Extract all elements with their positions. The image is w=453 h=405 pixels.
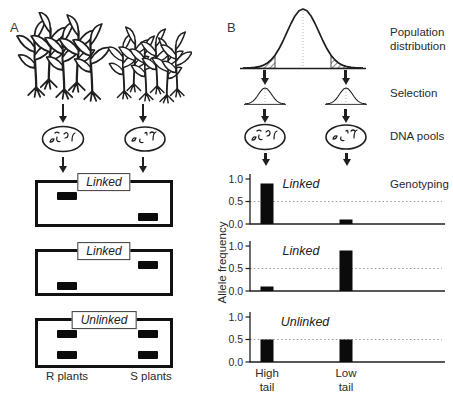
allele-frequency-chart-unlinked: 1.0 0.5 0.0 Unlinked: [225, 304, 450, 366]
chart-linkage-tag: Unlinked: [281, 315, 331, 329]
allele-frequency-chart-linked-2: 1.0 0.5 0.0 Linked: [225, 233, 450, 295]
bar-high-tail: [261, 340, 274, 363]
population-distribution-curve: [236, 5, 370, 71]
bar-high-tail: [261, 184, 274, 225]
step-label-dna-pools: DNA pools: [390, 130, 444, 144]
gel-linkage-tag: Linked: [77, 173, 130, 191]
down-arrow-icon: [344, 109, 347, 116]
gel-band-r-lower: [57, 351, 77, 359]
gel-box-3: Unlinked: [35, 318, 173, 368]
dna-pool-icon: [324, 123, 368, 151]
step-label-selection: Selection: [390, 87, 437, 101]
ytick-label: 0.5: [228, 333, 243, 345]
bar-low-tail: [340, 220, 353, 225]
plant-group-s-icon: [108, 24, 192, 104]
bar-high-tail: [261, 287, 274, 292]
dna-pool-icon: [41, 125, 85, 153]
gel-linkage-tag: Unlinked: [72, 311, 137, 329]
allele-frequency-chart-linked-1: 1.0 0.5 0.0 Linked: [225, 166, 450, 228]
chart-linkage-tag: Linked: [283, 177, 321, 191]
lane-label-s-plants: S plants: [116, 370, 186, 384]
down-arrow-icon: [263, 109, 266, 116]
bar-low-tail: [340, 251, 353, 292]
down-arrow-icon: [62, 104, 65, 116]
chart-linkage-tag: Linked: [283, 244, 321, 258]
ytick-label: 1.0: [228, 311, 243, 323]
ytick-label: 1.0: [228, 173, 243, 185]
dna-pool-icon: [123, 125, 167, 153]
xlabel-high-tail: High tail: [237, 367, 297, 394]
down-arrow-icon: [62, 157, 65, 166]
down-arrow-icon: [345, 153, 348, 159]
gel-band-s-upper: [138, 330, 158, 338]
panel-b-label: B: [227, 20, 236, 35]
gel-band-s-lower: [138, 213, 158, 221]
down-arrow-icon: [142, 157, 145, 166]
gel-band-r-upper: [57, 330, 77, 338]
ytick-label: 0.5: [228, 262, 243, 274]
down-arrow-icon: [344, 70, 347, 78]
down-arrow-icon: [142, 104, 145, 116]
selection-curve-icon: [325, 85, 367, 107]
ytick-label: 0.0: [228, 218, 243, 229]
ytick-label: 0.0: [228, 285, 243, 296]
selection-curve-icon: [244, 85, 286, 107]
ytick-label: 0.0: [228, 356, 243, 367]
ytick-label: 1.0: [228, 240, 243, 252]
gel-band-r-lower: [57, 282, 77, 290]
ytick-label: 0.5: [228, 195, 243, 207]
gel-band-r-upper: [57, 192, 77, 200]
down-arrow-icon: [264, 153, 267, 159]
lane-label-r-plants: R plants: [32, 370, 102, 384]
gel-box-1: Linked: [35, 180, 173, 227]
dna-pool-icon: [243, 123, 287, 151]
gel-band-s-lower: [138, 351, 158, 359]
down-arrow-icon: [263, 70, 266, 78]
gel-band-s-upper: [138, 261, 158, 269]
xlabel-low-tail: Low tail: [316, 367, 376, 394]
y-axis-label: Allele frequency: [216, 207, 231, 319]
plant-group-r-icon: [16, 12, 110, 104]
step-label-genotyping: Genotyping: [390, 178, 449, 192]
gel-linkage-tag: Linked: [77, 242, 130, 260]
gel-box-2: Linked: [35, 249, 173, 296]
bar-low-tail: [340, 340, 353, 363]
figure-bsa-diagram: A Linked Linked: [0, 0, 453, 405]
step-label-population-distribution: Population distribution: [390, 26, 446, 53]
